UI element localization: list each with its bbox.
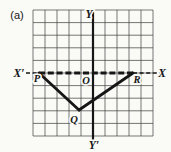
figure-part-label: (a) — [10, 9, 23, 21]
label-vertex-p: P — [34, 73, 41, 84]
label-vertex-q: Q — [70, 114, 78, 125]
label-vertex-r: R — [132, 74, 140, 85]
label-x-right: X — [157, 67, 166, 79]
label-origin: O — [82, 75, 90, 86]
figure-canvas: (a)YX′XOPRQY′ — [0, 0, 171, 152]
label-y-top: Y — [85, 8, 93, 20]
label-y-bottom: Y′ — [89, 139, 99, 151]
label-x-left: X′ — [13, 67, 25, 79]
coordinate-grid-figure: (a)YX′XOPRQY′ — [0, 0, 171, 152]
